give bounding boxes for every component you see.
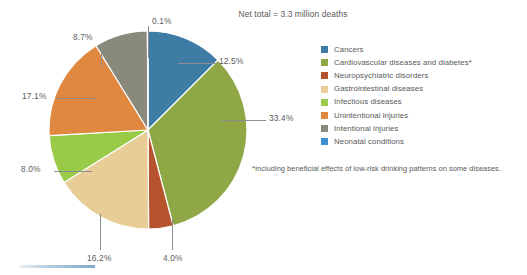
legend-item[interactable]: Gastrointestinal diseases [321, 83, 521, 96]
pie-slice-group [49, 31, 247, 229]
chart-footnote: *Including beneficial effects of low-ris… [252, 164, 501, 173]
bottom-accent-rule [20, 265, 95, 268]
pie-label-cardiovascular-diabetes: 33.4% [269, 113, 294, 123]
legend-item[interactable]: Cardiovascular diseases and diabetes* [321, 56, 521, 69]
legend-swatch-icon [321, 112, 328, 119]
pie-label-unintentional-injuries: 17.1% [22, 91, 47, 101]
legend-swatch-icon [321, 125, 328, 132]
pie-label-neuropsychiatric: 4.0% [163, 253, 183, 263]
legend-item[interactable]: Unintentional injuries [321, 109, 521, 122]
legend-item[interactable]: Neuropsychiatric disorders [321, 69, 521, 82]
pie-label-intentional-injuries: 8.7% [73, 32, 93, 42]
legend-item-label: Infectious diseases [334, 98, 402, 106]
pie-chart-svg [48, 30, 248, 230]
leader-line-infectious [54, 171, 92, 172]
leader-line-cancers [178, 63, 216, 64]
leader-line-intentional [101, 45, 102, 67]
leader-line-neuropsych [172, 218, 173, 250]
legend-item[interactable]: Cancers [321, 43, 521, 56]
legend-item-label: Unintentional injuries [334, 112, 408, 120]
legend-swatch-icon [321, 99, 328, 106]
pie-label-cancers: 12.5% [219, 56, 244, 66]
pie-chart-figure: Net total = 3.3 million deaths 0.1% 12.5… [0, 0, 527, 275]
pie-chart [48, 30, 248, 230]
legend-item[interactable]: Infectious diseases [321, 96, 521, 109]
legend-item-label: Intentional injuries [334, 125, 398, 133]
leader-line-neonatal [148, 26, 149, 58]
legend-swatch-icon [321, 46, 328, 53]
legend-item-label: Cancers [334, 46, 364, 54]
leader-line-unintentional [57, 98, 95, 99]
legend-item-label: Cardiovascular diseases and diabetes* [334, 59, 472, 67]
legend-swatch-icon [321, 86, 328, 93]
legend-item[interactable]: Neonatal conditions [321, 135, 521, 148]
pie-label-infectious: 8.0% [21, 164, 41, 174]
chart-title: Net total = 3.3 million deaths [198, 9, 388, 19]
legend-swatch-icon [321, 59, 328, 66]
legend-item-label: Neonatal conditions [334, 138, 404, 146]
chart-legend: CancersCardiovascular diseases and diabe… [321, 43, 521, 149]
legend-swatch-icon [321, 72, 328, 79]
legend-item-label: Gastrointestinal diseases [334, 85, 423, 93]
legend-item[interactable]: Intentional injuries [321, 122, 521, 135]
pie-label-neonatal-conditions: 0.1% [152, 16, 172, 26]
legend-swatch-icon [321, 138, 328, 145]
pie-label-gastrointestinal: 16.2% [87, 253, 112, 263]
legend-item-label: Neuropsychiatric disorders [334, 72, 428, 80]
leader-line-cardiovascular [222, 120, 266, 121]
leader-line-gastro [100, 214, 101, 250]
